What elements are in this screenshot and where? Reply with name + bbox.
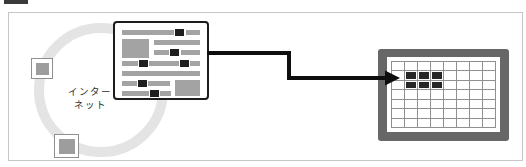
- diagram-frame: インター ネット: [8, 12, 523, 161]
- cropped-ui-fragment: [4, 0, 28, 4]
- diagram-canvas: インター ネット: [0, 0, 526, 167]
- flow-arrow: [9, 13, 522, 160]
